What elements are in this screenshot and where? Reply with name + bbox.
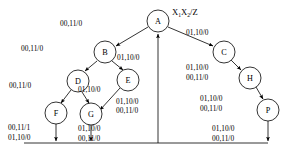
edge-label-p-to-a-line2: 00,11/0: [212, 134, 234, 143]
edge-label-d-to-f: 00,11/0: [9, 81, 31, 90]
edge-a-to-b: [116, 27, 148, 46]
node-e[interactable]: E: [117, 69, 139, 91]
node-f-label: F: [54, 109, 59, 118]
edge-label-f-to-a-line1: 00,11/1: [8, 123, 30, 132]
node-c-label: C: [221, 48, 227, 57]
node-g-label: G: [88, 110, 94, 119]
node-f[interactable]: F: [45, 102, 67, 124]
edge-label-d-to-g: 01,10/0: [78, 85, 101, 94]
edge-label-a-to-c: 01,10/0: [186, 28, 209, 37]
node-b[interactable]: B: [94, 41, 116, 63]
edge-label-p-to-a-line1: 01,10/0: [212, 124, 235, 133]
edge-label-h-to-p-line1: 01,10/0: [200, 94, 223, 103]
edge-label-b-to-d: 00,11/0: [21, 44, 43, 53]
edge-label-g-to-a-line2: 00,11/0: [78, 134, 100, 143]
node-h-label: H: [247, 74, 253, 83]
edge-label-e-to-g-line2: 00,11/0: [116, 106, 138, 115]
edge-label-a-to-b: 00,11/0: [60, 19, 82, 28]
edge-b-to-e: [112, 61, 123, 70]
edge-b-to-d: [85, 61, 97, 71]
io-notation: X1X2/Z: [172, 7, 198, 18]
node-e-label: E: [125, 76, 130, 85]
edge-label-b-to-e: 01,10/0: [117, 53, 140, 62]
edge-label-g-to-a-line1: 01,10/0: [78, 124, 101, 133]
node-c[interactable]: C: [213, 41, 235, 63]
edge-label-h-to-p-line2: 00,11/0: [200, 104, 222, 113]
edge-h-to-p: [256, 87, 263, 99]
node-a[interactable]: A: [147, 10, 169, 32]
state-diagram: A B C D E F G: [0, 0, 293, 159]
diagram-canvas: A B C D E F G: [0, 0, 293, 159]
edge-label-f-to-a-line2: 01,10/0: [8, 133, 31, 142]
edge-label-c-to-h-line2: 00,11/0: [186, 73, 208, 82]
edge-label-e-to-g-line1: 01,10/0: [116, 97, 139, 106]
node-b-label: B: [102, 48, 108, 57]
edge-c-to-h: [231, 60, 241, 70]
edge-label-c-to-h-line1: 01,10/0: [186, 63, 209, 72]
node-g[interactable]: G: [80, 103, 102, 125]
edge-d-to-f: [61, 90, 71, 103]
node-h[interactable]: H: [239, 67, 261, 89]
node-a-label: A: [155, 17, 161, 26]
node-p[interactable]: P: [257, 99, 279, 121]
node-p-label: P: [266, 106, 271, 115]
io-notation-text: X1X2/Z: [172, 7, 198, 18]
io-z: /Z: [190, 7, 198, 17]
